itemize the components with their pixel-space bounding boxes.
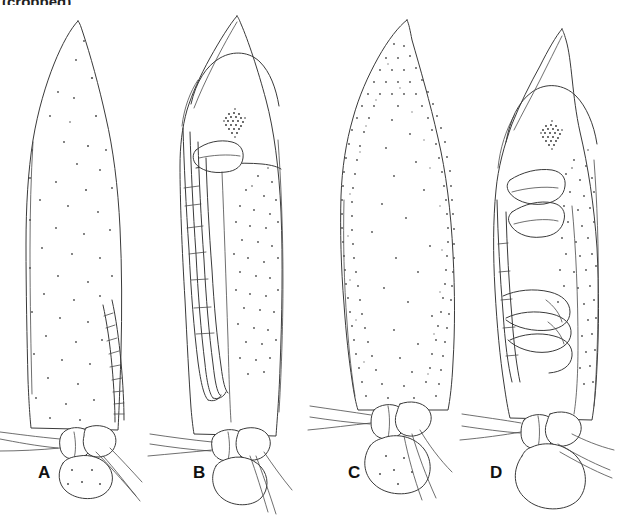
- panel-d-wing-plates: [507, 169, 565, 237]
- panel-b-eye-patch: [223, 108, 246, 138]
- panel-b-basal-collar: [212, 428, 271, 461]
- panel-c-stipple-pale: [347, 63, 443, 375]
- panel-c-drawing: [308, 20, 455, 500]
- panel-a-stipple: [29, 40, 113, 485]
- panel-b-wing-pad: [193, 141, 243, 173]
- panel-a-segmented-appendage: [103, 300, 124, 422]
- panel-b-drawing: [148, 16, 292, 514]
- panel-d-drawing: [460, 29, 614, 509]
- panel-d-stipple: [557, 149, 597, 385]
- panel-label-d: D: [490, 464, 502, 481]
- panel-label-c: C: [348, 464, 360, 481]
- panel-a-basal-collar: [60, 426, 116, 460]
- panel-b-stipple: [233, 167, 279, 375]
- figure-plate: (cropped): [0, 0, 617, 518]
- panel-d-eye-patch: [540, 120, 563, 150]
- panel-label-a: A: [38, 464, 50, 481]
- illustration-canvas: [0, 0, 617, 518]
- panel-a-basal-sac: [59, 455, 112, 498]
- panel-label-b: B: [193, 464, 205, 481]
- panel-c-basal-sac: [365, 436, 430, 494]
- panel-a-drawing: [0, 21, 142, 501]
